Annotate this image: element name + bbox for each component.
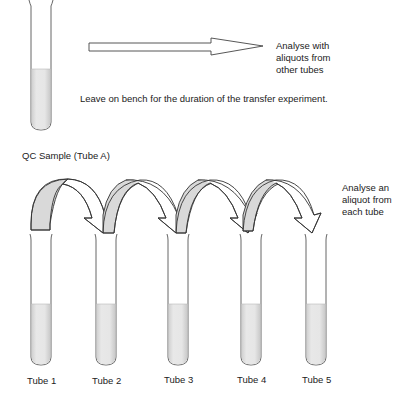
tube-1 [30, 234, 52, 365]
side-label-line-3: each tube [342, 206, 412, 218]
bench-note: Leave on bench for the duration of the t… [80, 93, 328, 105]
tube-2 [95, 234, 117, 365]
side-label-analyse-each-tube: Analyse an aliquot from each tube [342, 182, 412, 218]
tube-label-2: Tube 2 [92, 375, 121, 387]
tube-label-1: Tube 1 [27, 375, 56, 387]
tube-label-4: Tube 4 [237, 374, 266, 386]
tube-4 [240, 234, 262, 365]
arrow-label-line-1: Analyse with [276, 40, 366, 52]
curved-arrow-1-to-2 [31, 179, 112, 233]
curved-arrow-2-to-3 [103, 180, 185, 233]
arrow-label-analyse-with-aliquots: Analyse with aliquots from other tubes [276, 40, 366, 76]
qc-sample-label: QC Sample (Tube A) [22, 150, 110, 162]
qc-tube-top [29, 0, 53, 130]
tube-label-3: Tube 3 [164, 374, 193, 386]
side-label-line-1: Analyse an [342, 182, 412, 194]
side-label-line-2: aliquot from [342, 194, 412, 206]
transfer-arrow-right [89, 38, 263, 55]
curved-arrow-4-to-5 [243, 180, 321, 233]
tube-row [30, 234, 327, 365]
tube-5 [305, 234, 327, 365]
arrow-label-line-3: other tubes [276, 64, 366, 76]
tube-label-5: Tube 5 [302, 374, 331, 386]
arrow-label-line-2: aliquots from [276, 52, 366, 64]
tube-3 [167, 234, 189, 365]
curved-transfer-arrows [31, 179, 321, 233]
